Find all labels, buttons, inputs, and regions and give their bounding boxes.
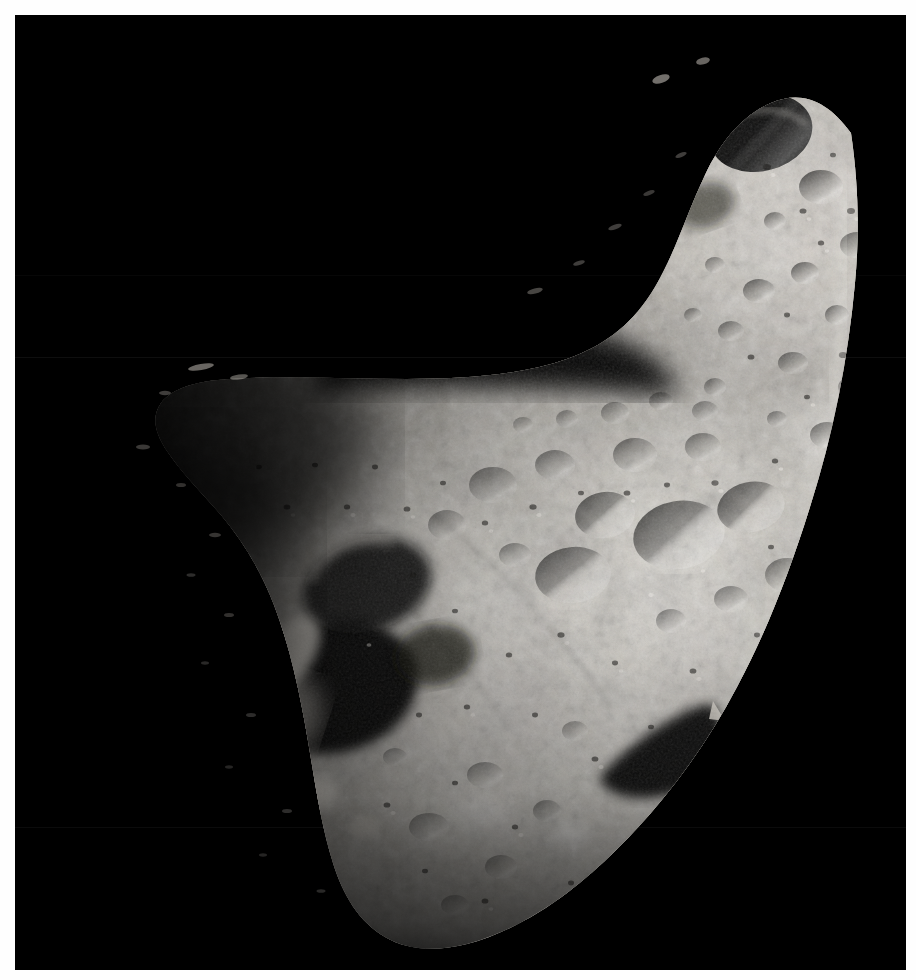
photo-plate (15, 15, 906, 970)
asteroid-eros-image (15, 15, 906, 970)
screenshot-root: Eros (0, 0, 916, 980)
asteroid-body (15, 15, 906, 970)
asteroid-stage (15, 15, 906, 970)
